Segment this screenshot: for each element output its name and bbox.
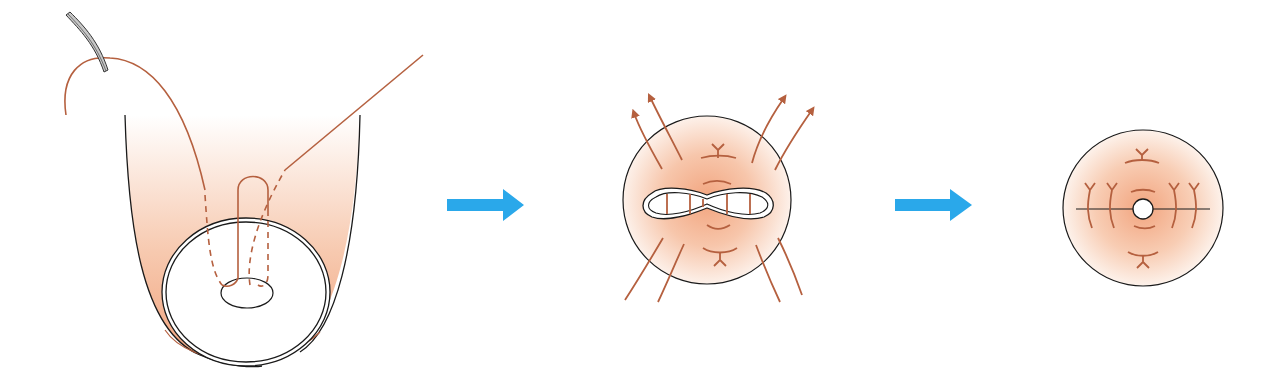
- arrow-right-icon: [447, 189, 524, 221]
- needle-icon: [66, 12, 108, 72]
- ring-inner: [166, 222, 326, 362]
- diagram-canvas: [0, 0, 1277, 380]
- arrow-right-icon: [895, 189, 972, 221]
- step-1-suture-placement: [65, 12, 423, 367]
- central-opening: [1133, 199, 1153, 219]
- step-3-closed-result: [1063, 130, 1223, 286]
- step-2-tissue-gathered: [623, 97, 812, 302]
